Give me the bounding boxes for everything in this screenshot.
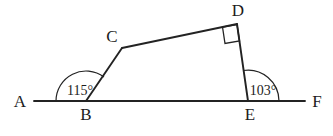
vertex-label-b: B — [80, 105, 91, 124]
vertex-label-e: E — [245, 105, 255, 124]
angle-measure-b: 115° — [67, 83, 93, 98]
angle-measure-e: 103° — [250, 83, 277, 98]
vertex-label-d: D — [232, 1, 244, 20]
geometry-figure: A B C D E F 115° 103° — [0, 0, 333, 136]
vertex-label-f: F — [312, 92, 321, 111]
segment-cd — [122, 24, 237, 48]
vertex-label-c: C — [106, 27, 117, 46]
vertex-label-a: A — [14, 92, 27, 111]
geometry-canvas: A B C D E F 115° 103° — [0, 0, 333, 136]
